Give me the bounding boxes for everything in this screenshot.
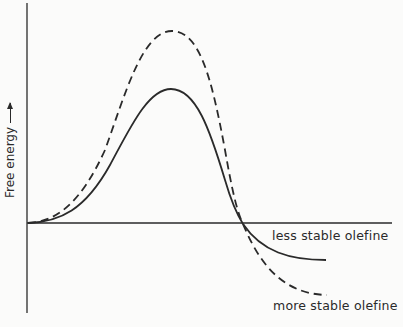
label-more-stable: more stable olefine — [273, 298, 398, 313]
energy-diagram — [0, 0, 403, 327]
label-less-stable: less stable olefine — [272, 228, 388, 243]
arrow-up-icon — [10, 103, 11, 123]
y-axis-label-text: Free energy — [3, 127, 17, 198]
y-axis-label: Free energy — [3, 103, 17, 198]
dashed-curve-more-stable — [28, 31, 327, 295]
